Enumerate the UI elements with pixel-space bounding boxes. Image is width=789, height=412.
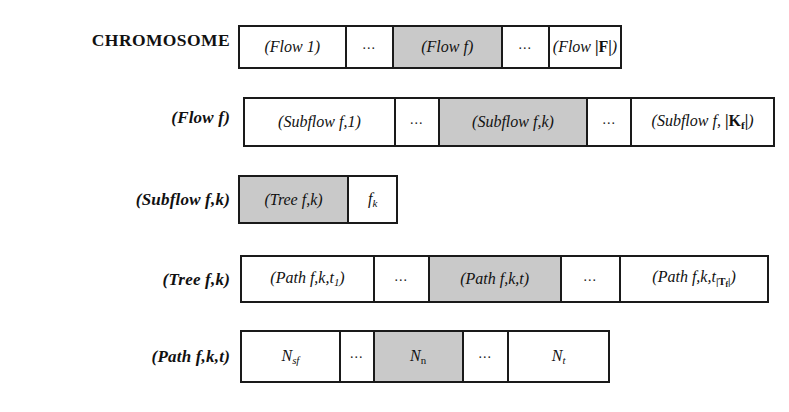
cell-subflow-f-k-label: (Subflow f,k) bbox=[472, 113, 554, 131]
chain-subflow-fk: (Tree f,k) fk bbox=[238, 175, 398, 224]
ellipsis-glyph: ... bbox=[363, 37, 377, 53]
cell-path-t[interactable]: (Path f,k,t) bbox=[430, 257, 562, 301]
cell-subflow-f-last[interactable]: (Subflow f, |Kf|) bbox=[632, 99, 773, 145]
row-label-chromosome: CHROMOSOME bbox=[40, 30, 230, 51]
cell-node-t-label: Nt bbox=[552, 347, 566, 366]
cell-path-t-last[interactable]: (Path f,k,t|Tf|) bbox=[621, 257, 767, 301]
cell-ellipsis-right-paths: ... bbox=[562, 257, 622, 301]
cell-node-t[interactable]: Nt bbox=[509, 332, 608, 381]
chain-flow-f: (Subflow f,1) ... (Subflow f,k) ... (Sub… bbox=[243, 97, 775, 147]
cell-tree-fk[interactable]: (Tree f,k) bbox=[240, 177, 349, 222]
cell-path-t-last-label: (Path f,k,t|Tf|) bbox=[652, 268, 735, 289]
cell-flow-last[interactable]: (Flow |F|) bbox=[550, 27, 620, 67]
cell-subflow-f-1[interactable]: (Subflow f,1) bbox=[245, 99, 396, 145]
row-label-path-fkt: (Path f,k,t) bbox=[30, 347, 230, 367]
cell-node-sf[interactable]: Nsf bbox=[242, 332, 341, 381]
cell-ellipsis-left-subflows: ... bbox=[396, 99, 440, 145]
cell-node-n[interactable]: Nn bbox=[375, 332, 464, 381]
cell-path-t1[interactable]: (Path f,k,t1) bbox=[242, 257, 375, 301]
cell-ellipsis-left-flows: ... bbox=[347, 27, 394, 67]
ellipsis-glyph: ... bbox=[350, 346, 364, 362]
ellipsis-glyph: ... bbox=[603, 112, 617, 128]
cell-tree-fk-label: (Tree f,k) bbox=[265, 191, 323, 209]
cell-subflow-f-last-label: (Subflow f, |Kf|) bbox=[652, 112, 754, 131]
cell-node-n-label: Nn bbox=[410, 347, 426, 366]
row-label-subflow-fk: (Subflow f,k) bbox=[20, 190, 230, 210]
cell-ellipsis-left-nodes: ... bbox=[341, 332, 375, 381]
chain-tree-fk: (Path f,k,t1) ... (Path f,k,t) ... (Path… bbox=[240, 255, 769, 303]
cell-fk[interactable]: fk bbox=[349, 177, 396, 222]
cell-flow-f[interactable]: (Flow f) bbox=[394, 27, 503, 67]
ellipsis-glyph: ... bbox=[519, 37, 533, 53]
ellipsis-glyph: ... bbox=[584, 269, 598, 285]
chain-chromosome: (Flow 1) ... (Flow f) ... (Flow |F|) bbox=[238, 25, 622, 69]
cell-ellipsis-left-paths: ... bbox=[375, 257, 430, 301]
cell-flow-last-label: (Flow |F|) bbox=[553, 38, 617, 56]
cell-flow-1-label: (Flow 1) bbox=[265, 38, 321, 56]
ellipsis-glyph: ... bbox=[479, 346, 493, 362]
ellipsis-glyph: ... bbox=[410, 112, 424, 128]
cell-fk-label: fk bbox=[368, 190, 377, 209]
row-label-tree-fk: (Tree f,k) bbox=[40, 270, 230, 290]
cell-subflow-f-k[interactable]: (Subflow f,k) bbox=[440, 99, 589, 145]
ellipsis-glyph: ... bbox=[395, 269, 409, 285]
cell-ellipsis-right-nodes: ... bbox=[464, 332, 510, 381]
cell-flow-f-label: (Flow f) bbox=[421, 38, 473, 56]
cell-ellipsis-right-subflows: ... bbox=[588, 99, 632, 145]
cell-ellipsis-right-flows: ... bbox=[503, 27, 550, 67]
chain-path-fkt: Nsf ... Nn ... Nt bbox=[240, 330, 610, 383]
cell-flow-1[interactable]: (Flow 1) bbox=[240, 27, 347, 67]
cell-node-sf-label: Nsf bbox=[281, 347, 299, 366]
row-label-flow-f: (Flow f) bbox=[40, 108, 230, 128]
cell-path-t-label: (Path f,k,t) bbox=[460, 270, 529, 288]
cell-subflow-f-1-label: (Subflow f,1) bbox=[278, 113, 361, 131]
chromosome-structure-diagram: CHROMOSOME (Flow 1) ... (Flow f) ... (Fl… bbox=[0, 0, 789, 412]
cell-path-t1-label: (Path f,k,t1) bbox=[270, 269, 344, 288]
